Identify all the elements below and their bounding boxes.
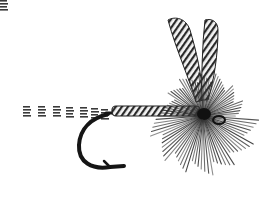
tail	[0, 0, 109, 120]
fly-illustration	[0, 0, 259, 197]
fly-drawing	[0, 0, 259, 197]
